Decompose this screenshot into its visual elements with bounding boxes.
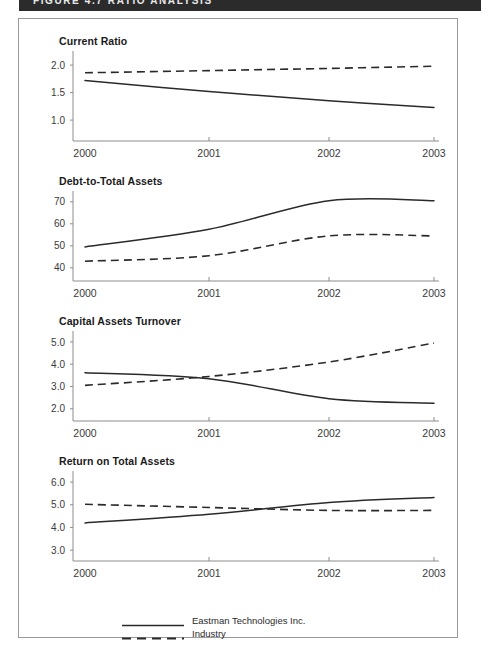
svg-text:2000: 2000	[73, 427, 97, 439]
plot-area: 5.04.03.02.02000200120022003	[19, 329, 459, 447]
svg-text:60: 60	[54, 218, 66, 229]
svg-text:5.0: 5.0	[51, 337, 65, 348]
svg-text:2001: 2001	[197, 287, 221, 299]
figure-panel: Current Ratio 2.01.51.02000200120022003 …	[18, 18, 458, 638]
svg-text:2003: 2003	[422, 147, 446, 159]
svg-text:3.0: 3.0	[51, 545, 65, 556]
svg-text:2003: 2003	[422, 567, 446, 579]
legend-label: Industry	[192, 628, 226, 639]
svg-text:2001: 2001	[197, 427, 221, 439]
plot-area: 706050402000200120022003	[19, 189, 459, 307]
svg-text:3.0: 3.0	[51, 381, 65, 392]
legend-item-industry: Industry	[122, 624, 226, 637]
svg-text:1.5: 1.5	[51, 87, 65, 98]
chart-legend: Eastman Technologies Inc. Industry	[19, 611, 459, 641]
svg-text:5.0: 5.0	[51, 499, 65, 510]
chart-title: Capital Assets Turnover	[59, 315, 181, 327]
svg-text:6.0: 6.0	[51, 477, 65, 488]
svg-text:1.0: 1.0	[51, 115, 65, 126]
plot-area: 6.05.04.03.02000200120022003	[19, 469, 459, 587]
svg-text:4.0: 4.0	[51, 359, 65, 370]
chart-title: Return on Total Assets	[59, 455, 175, 467]
figure-banner: FIGURE 4.7 RATIO ANALYSIS	[19, 0, 481, 11]
svg-text:2.0: 2.0	[51, 60, 65, 71]
figure-banner-title: FIGURE 4.7 RATIO ANALYSIS	[19, 0, 481, 6]
svg-text:70: 70	[54, 196, 66, 207]
legend-swatch-dashed	[122, 629, 184, 638]
svg-text:2001: 2001	[197, 147, 221, 159]
plot-area: 2.01.51.02000200120022003	[19, 49, 459, 167]
svg-text:2.0: 2.0	[51, 403, 65, 414]
svg-text:40: 40	[54, 262, 66, 273]
svg-text:2000: 2000	[73, 147, 97, 159]
svg-text:2000: 2000	[73, 287, 97, 299]
chart-title: Current Ratio	[59, 35, 127, 47]
svg-text:2002: 2002	[317, 287, 341, 299]
svg-text:2002: 2002	[317, 147, 341, 159]
svg-text:2002: 2002	[317, 427, 341, 439]
svg-text:2001: 2001	[197, 567, 221, 579]
chart-title: Debt-to-Total Assets	[59, 175, 163, 187]
svg-text:2002: 2002	[317, 567, 341, 579]
svg-text:50: 50	[54, 240, 66, 251]
svg-text:2000: 2000	[73, 567, 97, 579]
legend-item-company: Eastman Technologies Inc.	[122, 611, 305, 624]
svg-text:2003: 2003	[422, 287, 446, 299]
svg-text:4.0: 4.0	[51, 522, 65, 533]
svg-text:2003: 2003	[422, 427, 446, 439]
